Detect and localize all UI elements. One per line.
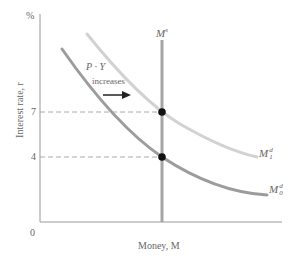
money-demand-0-label: Md0 — [269, 183, 283, 197]
arrow-right-icon — [122, 91, 131, 99]
annotation-increases: increases — [92, 77, 125, 86]
origin-label: 0 — [30, 228, 35, 238]
x-axis-label: Money, M — [138, 241, 180, 251]
money-market-chart — [0, 0, 297, 263]
money-demand-1-label: Md1 — [259, 147, 273, 161]
equilibrium-point-initial — [158, 153, 166, 161]
y-unit-label: % — [26, 11, 34, 21]
y-tick-4: 4 — [31, 152, 36, 162]
y-tick-7: 7 — [31, 107, 36, 117]
equilibrium-point-new — [158, 108, 166, 116]
y-axis-label: Interest rate, r — [14, 82, 25, 138]
annotation-py: P · Y — [86, 62, 105, 72]
money-supply-label: Ms — [156, 27, 168, 39]
